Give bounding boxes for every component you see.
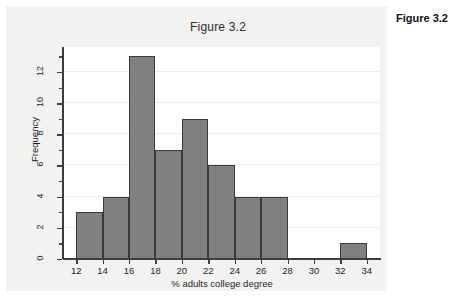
x-axis-tick-label: 14 (91, 265, 115, 276)
plot-area (63, 47, 380, 259)
y-axis-minor-tick (59, 56, 62, 57)
x-axis-tick-label: 28 (276, 265, 300, 276)
histogram-bar (155, 150, 181, 259)
histogram-bar (129, 56, 155, 259)
x-axis-tick-label: 24 (223, 265, 247, 276)
x-axis-tick-label: 18 (143, 265, 167, 276)
y-axis-minor-tick (59, 150, 62, 151)
y-axis-minor-tick (59, 243, 62, 244)
y-axis-tick (57, 228, 62, 229)
y-axis-tick (57, 197, 62, 198)
x-axis-tick (288, 259, 289, 264)
x-axis-tick-label: 34 (355, 265, 379, 276)
x-axis-tick-label: 12 (64, 265, 88, 276)
figure-panel: Figure 3.2 024681012 1214161820222426283… (6, 6, 387, 291)
chart-title: Figure 3.2 (58, 20, 378, 34)
y-axis-tick-label: 2 (35, 215, 45, 239)
y-axis-tick-label: 12 (35, 59, 45, 83)
y-axis-line (62, 47, 64, 259)
y-axis-title: Frequency (29, 100, 40, 180)
x-axis-tick-label: 20 (170, 265, 194, 276)
histogram-bar (76, 212, 102, 259)
x-axis-tick-label: 22 (196, 265, 220, 276)
histogram-bar (208, 165, 234, 259)
y-axis-tick (57, 134, 62, 135)
y-axis-minor-tick (59, 212, 62, 213)
y-axis-tick-label: 4 (35, 184, 45, 208)
gridline (63, 71, 380, 72)
x-axis-tick (155, 259, 156, 264)
x-axis-tick (103, 259, 104, 264)
histogram-bar (103, 197, 129, 259)
x-axis-tick (182, 259, 183, 264)
y-axis-tick (57, 259, 62, 260)
gridline (63, 102, 380, 103)
y-axis-tick (57, 72, 62, 73)
x-axis-tick (340, 259, 341, 264)
y-axis-tick (57, 165, 62, 166)
x-axis-tick (261, 259, 262, 264)
x-axis-tick-label: 30 (302, 265, 326, 276)
figure-caption: Figure 3.2 (396, 12, 448, 24)
x-axis-tick (129, 259, 130, 264)
y-axis-minor-tick (59, 88, 62, 89)
histogram-bar (182, 119, 208, 259)
y-axis-tick (57, 103, 62, 104)
x-axis-tick (367, 259, 368, 264)
x-axis-tick-label: 16 (117, 265, 141, 276)
x-axis-title: % adults college degree (63, 278, 381, 289)
x-axis-tick (314, 259, 315, 264)
x-axis-tick-label: 26 (249, 265, 273, 276)
x-axis-tick (76, 259, 77, 264)
y-axis-tick-label: 0 (35, 246, 45, 270)
y-axis-minor-tick (59, 119, 62, 120)
x-axis-tick (208, 259, 209, 264)
histogram-bar (235, 197, 261, 259)
gridline (63, 133, 380, 134)
x-axis-line (63, 258, 381, 260)
x-axis-tick-label: 32 (328, 265, 352, 276)
x-axis-tick (235, 259, 236, 264)
y-axis-minor-tick (59, 181, 62, 182)
histogram-bar (340, 243, 366, 259)
histogram-bar (261, 197, 287, 259)
